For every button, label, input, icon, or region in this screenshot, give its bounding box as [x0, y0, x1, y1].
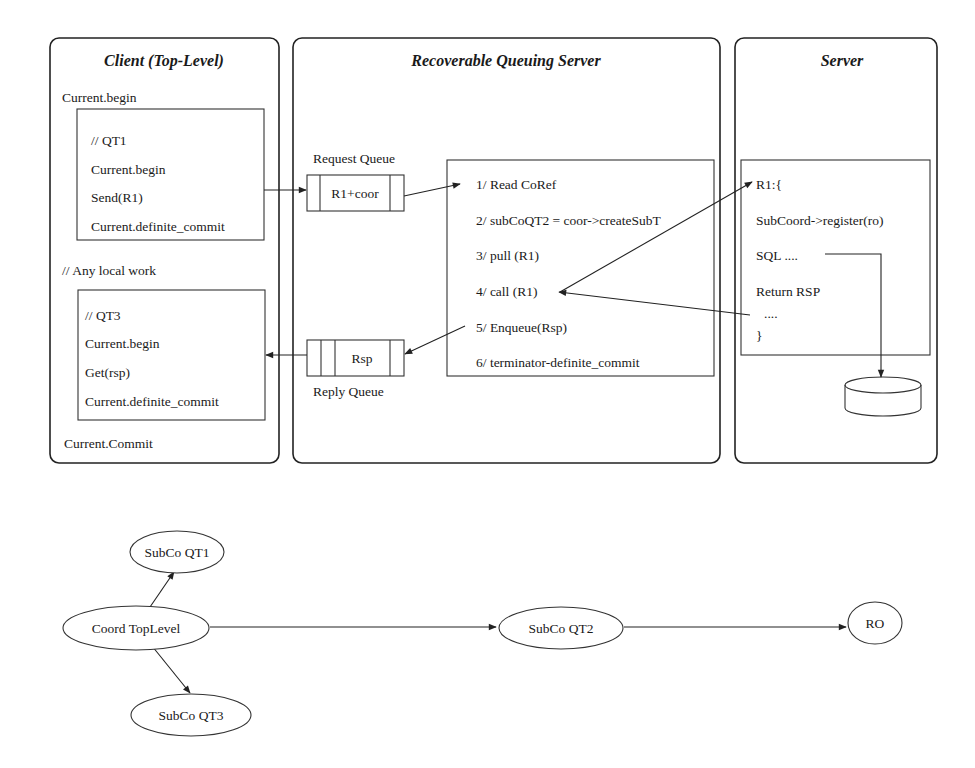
qt1-line: // QT1: [91, 133, 127, 148]
request-queue-label: Request Queue: [313, 151, 395, 166]
qt3-block: // QT3 Current.begin Get(rsp) Current.de…: [78, 290, 265, 420]
node-coord-toplevel: Coord TopLevel: [63, 606, 209, 650]
reply-queue-item: Rsp: [351, 351, 372, 366]
dequeue-arrow: [404, 184, 460, 196]
node-ro: RO: [848, 602, 902, 644]
node-label: SubCo QT1: [145, 545, 210, 560]
server-code-block: R1:{ SubCoord->register(ro) SQL .... Ret…: [741, 160, 930, 355]
rqs-step: 5/ Enqueue(Rsp): [476, 320, 567, 335]
client-panel: Client (Top-Level) Current.begin // QT1 …: [50, 38, 279, 463]
qt1-line: Send(R1): [91, 190, 143, 205]
rqs-step: 6/ terminator-definite_commit: [476, 355, 640, 370]
rqs-step: 1/ Read CoRef: [476, 177, 557, 192]
queuing-diagram: Client (Top-Level) Current.begin // QT1 …: [0, 0, 975, 768]
reply-queue-label: Reply Queue: [313, 384, 384, 399]
edge-root-qt1: [150, 572, 174, 607]
rqs-steps-block: 1/ Read CoRef 2/ subCoQT2 = coor->create…: [447, 160, 714, 376]
rqs-step: 3/ pull (R1): [476, 248, 539, 263]
server-panel: Server R1:{ SubCoord->register(ro) SQL .…: [735, 38, 937, 463]
reply-queue: Rsp: [307, 340, 404, 376]
qt3-line: // QT3: [85, 308, 121, 323]
node-subco-qt1: SubCo QT1: [130, 531, 224, 573]
database-cylinder-icon: [845, 377, 921, 416]
return-arrow: [559, 292, 750, 315]
node-label: SubCo QT2: [529, 621, 594, 636]
node-label: SubCo QT3: [159, 708, 224, 723]
request-queue: R1+coor: [307, 175, 404, 211]
client-commit: Current.Commit: [64, 436, 153, 451]
call-arrow: [560, 182, 752, 292]
client-local-work: // Any local work: [62, 263, 156, 278]
rqs-step: 4/ call (R1): [476, 284, 537, 299]
qt1-line: Current.definite_commit: [91, 219, 225, 234]
rqs-title: Recoverable Queuing Server: [410, 52, 601, 70]
server-title: Server: [821, 52, 864, 69]
qt3-line: Get(rsp): [85, 365, 130, 380]
server-code-line: SQL ....: [756, 248, 798, 263]
node-label: Coord TopLevel: [92, 621, 181, 636]
server-code-line: R1:{: [756, 177, 782, 192]
qt1-block: // QT1 Current.begin Send(R1) Current.de…: [77, 109, 264, 240]
qt1-line: Current.begin: [91, 162, 166, 177]
enqueue-arrow: [405, 326, 465, 354]
server-code-line: Return RSP: [756, 284, 820, 299]
server-code-line: }: [756, 328, 762, 343]
qt3-line: Current.definite_commit: [85, 394, 219, 409]
node-subco-qt3: SubCo QT3: [131, 694, 251, 736]
server-code-line: SubCoord->register(ro): [756, 213, 884, 228]
sql-arrow: [825, 254, 881, 377]
request-queue-item: R1+coor: [331, 186, 379, 201]
rqs-steps-box: [447, 160, 714, 376]
server-code-line: ....: [764, 306, 778, 321]
client-begin: Current.begin: [62, 90, 137, 105]
transaction-tree: SubCo QT1 Coord TopLevel SubCo QT3 SubCo…: [63, 531, 902, 736]
node-subco-qt2: SubCo QT2: [499, 607, 623, 649]
rqs-panel: Recoverable Queuing Server Request Queue…: [293, 38, 720, 463]
client-title: Client (Top-Level): [104, 52, 224, 70]
rqs-step: 2/ subCoQT2 = coor->createSubT: [476, 213, 662, 228]
qt3-line: Current.begin: [85, 336, 160, 351]
node-label: RO: [866, 616, 885, 631]
